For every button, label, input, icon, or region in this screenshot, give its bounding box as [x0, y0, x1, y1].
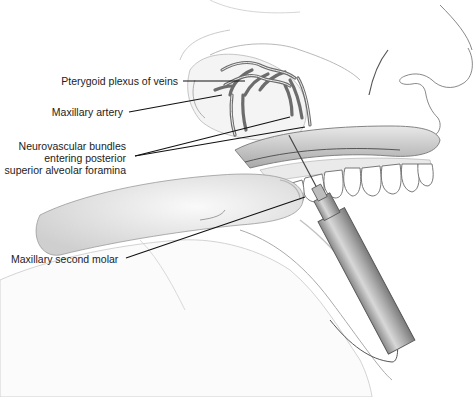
label-maxillary-second-molar: Maxillary second molar: [11, 253, 118, 266]
illustration: [0, 0, 476, 397]
label-maxillary-artery: Maxillary artery: [0, 106, 123, 119]
label-neurovascular-line1: Neurovascular bundles: [0, 140, 126, 153]
label-neurovascular-line2: entering posterior: [0, 152, 126, 165]
label-pterygoid-plexus: Pterygoid plexus of veins: [0, 75, 178, 88]
label-neurovascular-line3: superior alveolar foramina: [0, 164, 126, 177]
